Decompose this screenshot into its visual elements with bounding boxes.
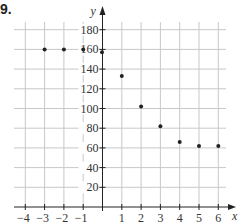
- x-tick-label: −3: [36, 211, 49, 224]
- x-tick-label: 2: [138, 211, 144, 224]
- y-tick-label: 40: [87, 161, 99, 175]
- y-tick-label: 60: [87, 141, 99, 155]
- data-point: [100, 50, 104, 54]
- y-tick-label: 120: [81, 82, 99, 96]
- data-point: [120, 74, 124, 78]
- y-tick-label: 20: [87, 180, 99, 194]
- y-axis-label: y: [90, 4, 97, 18]
- data-point: [197, 144, 201, 148]
- x-tick-label: 6: [215, 211, 221, 224]
- x-axis-label: x: [231, 209, 238, 223]
- data-point: [139, 105, 143, 109]
- x-tick-label: −1: [75, 211, 88, 224]
- data-point: [43, 47, 47, 51]
- data-point: [178, 140, 182, 144]
- data-point: [62, 47, 66, 51]
- data-point: [158, 124, 162, 128]
- data-points: [43, 47, 221, 148]
- x-tick-label: 1: [119, 211, 125, 224]
- y-tick-label: 80: [87, 121, 99, 135]
- y-axis-arrow-icon: [100, 6, 106, 15]
- y-tick-label: 140: [81, 62, 99, 76]
- x-tick-label: −2: [56, 211, 69, 224]
- tick-labels: xy−4−3−2−112345620406080100120140160180: [17, 4, 238, 224]
- x-tick-label: 5: [196, 211, 202, 224]
- x-tick-label: 4: [177, 211, 183, 224]
- data-point: [216, 144, 220, 148]
- data-point: [81, 47, 85, 51]
- x-tick-label: 3: [157, 211, 163, 224]
- y-tick-label: 100: [81, 102, 99, 116]
- x-tick-label: −4: [17, 211, 30, 224]
- y-tick-label: 180: [81, 23, 99, 37]
- scatter-chart: xy−4−3−2−112345620406080100120140160180: [0, 0, 239, 224]
